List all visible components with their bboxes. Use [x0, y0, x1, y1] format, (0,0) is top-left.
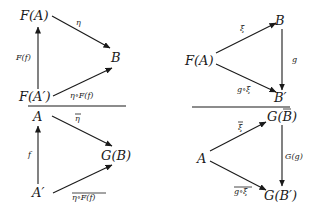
bottom-right-diagram: G(B) A G(B′) ξ G(g) g∘ξ [196, 109, 303, 203]
node-B: B [274, 13, 285, 28]
top-left-diagram: F(A) B F(A′) F(f) η η∘F(f) [15, 8, 121, 104]
bottom-left-diagram: A G(B) A′ f η η∘F(f) [27, 109, 131, 202]
label-eta-bar-text: η [75, 114, 80, 123]
label-g-comp-xi-bar-text: g∘ξ [234, 187, 248, 196]
label-eta-comp-F-f: η∘F(f) [70, 91, 93, 100]
arrow-eta-bar [52, 116, 112, 146]
node-G-of-B: G(B) [101, 148, 131, 163]
label-F-f: F(f) [15, 53, 31, 62]
arrow-eta-comp-F-f-bar [53, 165, 112, 193]
node-G-of-B-prime: G(B′) [264, 188, 297, 203]
arrow-g-comp-xi-bar [210, 161, 266, 190]
label-f: f [27, 150, 33, 159]
node-F-of-A: F(A) [19, 8, 49, 23]
node-F-of-A-prime: F(A′) [18, 89, 51, 104]
label-G-g: G(g) [285, 152, 303, 161]
universal-arrow-diagram: F(A) B F(A′) F(f) η η∘F(f) A G(B) A′ f η… [0, 0, 317, 215]
node-A: A [196, 151, 206, 166]
node-G-of-B-bar-text: G(B) [267, 109, 297, 124]
label-g-comp-xi: g∘ξ [237, 85, 251, 94]
label-eta-bar: η [75, 114, 81, 123]
label-xi-bar-text: ξ [238, 123, 243, 132]
node-F-of-A: F(A) [184, 53, 214, 68]
label-xi: ξ [240, 24, 245, 33]
node-B: B [110, 50, 121, 65]
label-g: g [292, 55, 297, 64]
node-G-of-B-bar: G(B) [267, 109, 297, 124]
arrow-eta [52, 16, 110, 48]
arrow-xi [216, 23, 276, 53]
node-A-prime: A′ [31, 185, 44, 200]
label-g-comp-xi-bar: g∘ξ [234, 187, 252, 196]
node-B-prime: B′ [273, 90, 287, 105]
top-right-diagram: F(A) B B′ ξ g g∘ξ [184, 13, 297, 105]
label-xi-bar: ξ [238, 122, 243, 132]
label-eta-comp-F-f-bar: η∘F(f) [72, 193, 106, 202]
label-eta-comp-F-f-bar-text: η∘F(f) [72, 193, 95, 202]
label-eta: η [76, 18, 81, 27]
node-A: A [32, 109, 42, 124]
